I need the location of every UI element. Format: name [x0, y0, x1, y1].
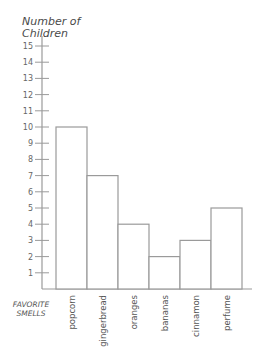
y-tick-label: 3 — [28, 236, 33, 245]
bar-gingerbread — [87, 176, 118, 289]
y-tick-label: 12 — [23, 91, 33, 100]
y-tick-label: 15 — [23, 42, 33, 51]
category-label-cinnamon: cinnamon — [191, 295, 201, 337]
x-axis-title-line2: SMELLS — [8, 309, 54, 318]
y-tick-label: 1 — [28, 269, 33, 278]
bar-bananas — [149, 257, 180, 289]
y-tick-label: 13 — [23, 74, 33, 83]
category-label-popcorn: popcorn — [67, 295, 77, 330]
category-label-gingerbread: gingerbread — [98, 295, 108, 347]
bar-cinnamon — [180, 240, 211, 289]
y-tick-label: 10 — [23, 123, 33, 132]
y-tick-label: 8 — [28, 155, 33, 164]
bar-popcorn — [56, 127, 87, 289]
category-label-perfume: perfume — [222, 295, 232, 331]
y-tick-label: 9 — [28, 139, 33, 148]
y-tick-label: 14 — [23, 58, 33, 67]
x-axis-title-line1: FAVORITE — [8, 300, 54, 309]
category-label-oranges: oranges — [129, 294, 139, 329]
x-axis-title: FAVORITE SMELLS — [8, 300, 54, 318]
y-tick-label: 2 — [28, 253, 33, 262]
y-tick-label: 11 — [23, 107, 33, 116]
y-tick-label: 6 — [28, 188, 33, 197]
y-tick-label: 4 — [28, 220, 33, 229]
bar-perfume — [211, 208, 242, 289]
y-tick-label: 7 — [28, 172, 33, 181]
y-tick-label: 5 — [28, 204, 33, 213]
category-label-bananas: bananas — [160, 294, 170, 331]
bar-oranges — [118, 224, 149, 289]
